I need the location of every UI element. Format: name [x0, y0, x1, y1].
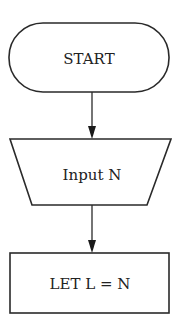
arrow-down-icon: [88, 240, 96, 253]
connector-start-to-input: [88, 92, 96, 139]
let-node: LET L = N: [10, 253, 169, 313]
flowchart-diagram: START Input N LET L = N: [0, 0, 181, 331]
connector-input-to-let: [88, 205, 96, 253]
arrow-down-icon: [88, 126, 96, 139]
let-label: LET L = N: [50, 275, 131, 293]
input-label: Input N: [63, 166, 122, 184]
start-node: START: [9, 23, 169, 92]
start-label: START: [63, 50, 114, 68]
input-node: Input N: [10, 139, 171, 205]
